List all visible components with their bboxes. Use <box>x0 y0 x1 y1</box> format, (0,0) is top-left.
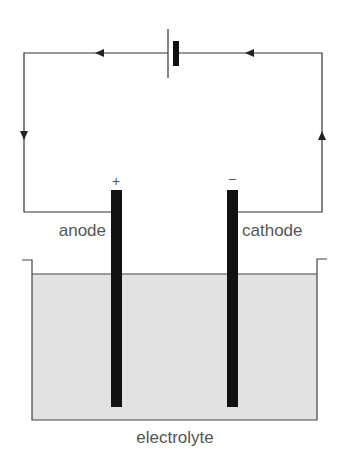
cathode-label: cathode <box>242 221 303 240</box>
anode-label: anode <box>59 221 106 240</box>
electrolyte-label: electrolyte <box>136 428 213 447</box>
arrow-left-icon <box>95 49 104 57</box>
arrow-down-icon <box>20 131 28 140</box>
anode-electrode <box>111 190 122 407</box>
anode-sign: + <box>112 173 120 189</box>
cathode-electrode <box>227 190 238 407</box>
circuit-wire <box>24 53 322 212</box>
arrow-left-icon <box>245 49 254 57</box>
battery-icon <box>168 29 179 78</box>
arrow-up-icon <box>318 131 326 140</box>
electrolyte-liquid <box>32 274 317 420</box>
cathode-sign: − <box>228 171 236 187</box>
electrolysis-diagram: + − anode cathode electrolyte <box>0 0 349 468</box>
